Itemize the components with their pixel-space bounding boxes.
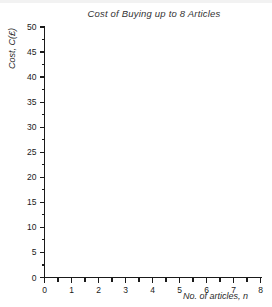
x-tick-label: 4	[150, 285, 155, 295]
x-tick-label: 2	[96, 285, 101, 295]
y-tick-label: 50	[27, 22, 37, 32]
x-tick-label: 3	[123, 285, 128, 295]
y-tick-label: 15	[27, 197, 37, 207]
y-tick-label: 5	[32, 247, 37, 257]
x-tick-label: 6	[204, 285, 209, 295]
y-tick-label: 35	[27, 97, 37, 107]
y-tick-label: 40	[27, 72, 37, 82]
y-tick-label: 0	[32, 273, 37, 283]
x-tick-label: 1	[69, 285, 74, 295]
x-tick-label: 7	[231, 285, 236, 295]
x-tick-label: 0	[42, 285, 47, 295]
y-tick-group: 05101520253035404550	[27, 22, 44, 283]
y-tick-label: 25	[27, 147, 37, 157]
y-tick-label: 20	[27, 172, 37, 182]
y-tick-label: 45	[27, 47, 37, 57]
plot-background	[44, 27, 260, 277]
chart-figure: Cost of Buying up to 8 Articles Cost, C(…	[0, 0, 272, 307]
x-tick-group: 012345678	[42, 278, 263, 295]
y-tick-label: 10	[27, 222, 37, 232]
y-tick-label: 30	[27, 122, 37, 132]
x-tick-label: 5	[177, 285, 182, 295]
x-tick-label: 8	[258, 285, 263, 295]
plot-area: 05101520253035404550 012345678	[0, 0, 272, 307]
